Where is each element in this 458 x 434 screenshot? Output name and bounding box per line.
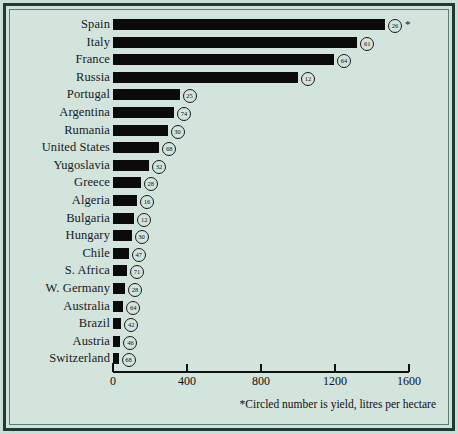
- yield-badge: 61: [360, 37, 374, 51]
- bar-track: 30: [113, 122, 448, 139]
- bar-track: 61: [113, 34, 448, 51]
- x-axis-tick: [186, 364, 188, 372]
- bar-track: 64: [113, 51, 448, 68]
- yield-badge: 64: [337, 54, 351, 68]
- x-axis-tick-label: 0: [88, 374, 138, 389]
- star-marker: *: [405, 17, 411, 31]
- yield-badge: 28: [144, 177, 158, 191]
- value-bar: [113, 142, 159, 153]
- yield-badge: 42: [124, 318, 138, 332]
- yield-badge: 64: [126, 301, 140, 315]
- bar-row: Rumania30: [22, 122, 448, 139]
- bar-row: Yugoslavia32: [22, 157, 448, 174]
- x-axis-tick: [334, 364, 336, 372]
- value-bar: [113, 107, 174, 118]
- bar-track: 12: [113, 210, 448, 227]
- bar-row: Australia64: [22, 298, 448, 315]
- bar-row: Greece28: [22, 174, 448, 191]
- bar-row: Bulgaria12: [22, 210, 448, 227]
- value-bar: [113, 230, 132, 241]
- bar-track: 46: [113, 333, 448, 350]
- category-label: Russia: [22, 69, 110, 86]
- category-label: Spain: [22, 16, 110, 33]
- value-bar: [113, 353, 119, 364]
- category-label: Australia: [22, 298, 110, 315]
- category-label: Rumania: [22, 122, 110, 139]
- bar-track: 28: [113, 174, 448, 191]
- category-label: Austria: [22, 333, 110, 350]
- footnote-text: *Circled number is yield, litres per hec…: [0, 397, 436, 412]
- yield-badge: 28: [128, 283, 142, 297]
- yield-badge: 46: [123, 336, 137, 350]
- chart-figure: Spain26*Italy61France64Russia12Portugal2…: [0, 0, 458, 434]
- value-bar: [113, 125, 168, 136]
- bar-track: 68: [113, 350, 448, 367]
- bar-track: 42: [113, 315, 448, 332]
- value-bar: [113, 265, 127, 276]
- bar-track: 64: [113, 298, 448, 315]
- value-bar: [113, 318, 121, 329]
- category-label: S. Africa: [22, 262, 110, 279]
- bar-track: 25: [113, 86, 448, 103]
- bar-row: United States68: [22, 139, 448, 156]
- value-bar: [113, 19, 385, 30]
- category-label: Greece: [22, 174, 110, 191]
- bar-row: Spain26*: [22, 16, 448, 33]
- category-label: Algeria: [22, 192, 110, 209]
- bar-row: S. Africa71: [22, 262, 448, 279]
- yield-badge: 12: [137, 213, 151, 227]
- yield-badge: 30: [171, 125, 185, 139]
- bar-row: Brazil42: [22, 315, 448, 332]
- x-axis-tick-label: 400: [162, 374, 212, 389]
- category-label: Hungary: [22, 227, 110, 244]
- value-bar: [113, 177, 141, 188]
- yield-badge: 12: [301, 72, 315, 86]
- value-bar: [113, 283, 125, 294]
- x-axis-tick: [260, 364, 262, 372]
- yield-badge: 25: [183, 89, 197, 103]
- bar-row: Switzerland68: [22, 350, 448, 367]
- value-bar: [113, 72, 298, 83]
- yield-badge: 71: [130, 265, 144, 279]
- bar-row: W. Germany28: [22, 280, 448, 297]
- bar-track: 32: [113, 157, 448, 174]
- bar-track: 16: [113, 192, 448, 209]
- x-axis-tick-label: 1600: [384, 374, 434, 389]
- value-bar: [113, 301, 123, 312]
- value-bar: [113, 336, 120, 347]
- yield-badge: 74: [177, 107, 191, 121]
- value-bar: [113, 195, 137, 206]
- x-axis-tick-label: 800: [236, 374, 286, 389]
- yield-badge: 47: [132, 248, 146, 262]
- category-label: W. Germany: [22, 280, 110, 297]
- bar-track: 47: [113, 245, 448, 262]
- category-label: Switzerland: [22, 350, 110, 367]
- yield-badge: 26: [388, 19, 402, 33]
- bar-track: 30: [113, 227, 448, 244]
- bar-track: 74: [113, 104, 448, 121]
- category-label: Brazil: [22, 315, 110, 332]
- bar-track: 28: [113, 280, 448, 297]
- category-label: Argentina: [22, 104, 110, 121]
- bar-row: Italy61: [22, 34, 448, 51]
- bar-row: Algeria16: [22, 192, 448, 209]
- plot-area: Spain26*Italy61France64Russia12Portugal2…: [0, 0, 458, 434]
- bar-row: Hungary30: [22, 227, 448, 244]
- category-label: France: [22, 51, 110, 68]
- x-axis-tick: [408, 364, 410, 372]
- category-label: Yugoslavia: [22, 157, 110, 174]
- category-label: Portugal: [22, 86, 110, 103]
- value-bar: [113, 54, 334, 65]
- value-bar: [113, 248, 129, 259]
- category-label: Chile: [22, 245, 110, 262]
- bar-row: Portugal25: [22, 86, 448, 103]
- value-bar: [113, 37, 357, 48]
- yield-badge: 30: [135, 230, 149, 244]
- bar-row: Argentina74: [22, 104, 448, 121]
- bar-track: 26*: [113, 16, 448, 33]
- bar-row: Russia12: [22, 69, 448, 86]
- value-bar: [113, 89, 180, 100]
- bar-row: Chile47: [22, 245, 448, 262]
- yield-badge: 68: [122, 353, 136, 367]
- value-bar: [113, 160, 149, 171]
